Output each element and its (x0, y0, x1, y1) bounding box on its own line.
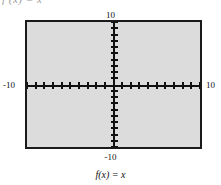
axis-label-right: 10 (206, 81, 215, 90)
calculator-viewing-window (25, 20, 202, 149)
y-axis-tick (111, 146, 118, 147)
y-axis-tick (111, 102, 118, 104)
x-axis-tick (35, 82, 37, 89)
y-axis-tick (111, 90, 118, 92)
x-axis-tick (43, 82, 45, 89)
y-axis-tick (111, 52, 118, 54)
y-axis-tick (111, 77, 118, 79)
y-axis-tick (111, 71, 118, 73)
x-axis-tick (121, 82, 123, 89)
x-axis-tick (95, 82, 97, 89)
x-axis-tick (164, 82, 166, 89)
y-axis-tick (111, 134, 118, 136)
y-axis-tick (111, 40, 118, 42)
clipped-text-fragment: f (x) = x (2, 0, 42, 5)
x-axis-tick (156, 82, 158, 89)
y-axis-tick (111, 65, 118, 67)
x-axis-tick (130, 82, 132, 89)
y-axis-tick (111, 59, 118, 61)
y-axis-tick (111, 140, 118, 142)
y-axis-tick (111, 96, 118, 98)
x-axis-tick (190, 82, 192, 89)
x-axis-tick (61, 82, 63, 89)
plot-area (27, 22, 200, 147)
axis-label-top: 10 (0, 11, 221, 20)
axis-label-bottom: -10 (0, 153, 221, 162)
x-axis-tick (104, 82, 106, 89)
x-axis-tick (78, 82, 80, 89)
y-axis-tick (111, 115, 118, 117)
x-axis-tick (182, 82, 184, 89)
y-axis-tick (111, 121, 118, 123)
x-axis-tick (52, 82, 54, 89)
y-axis-tick (111, 34, 118, 36)
x-axis-tick (69, 82, 71, 89)
x-axis-tick (87, 82, 89, 89)
y-axis-tick (111, 22, 118, 23)
x-axis-tick (199, 82, 200, 89)
x-axis-tick (138, 82, 140, 89)
y-axis-tick (111, 46, 118, 48)
y-axis-tick (111, 27, 118, 29)
y-axis-tick (111, 109, 118, 111)
x-axis-tick (173, 82, 175, 89)
axis-label-left: -10 (3, 81, 15, 90)
y-axis-tick (111, 127, 118, 129)
x-axis-tick (147, 82, 149, 89)
graphing-calculator-figure: f (x) = x 10 -10 -10 10 f(x) = x (0, 0, 221, 185)
x-axis-tick (27, 82, 28, 89)
figure-caption: f(x) = x (0, 169, 221, 180)
